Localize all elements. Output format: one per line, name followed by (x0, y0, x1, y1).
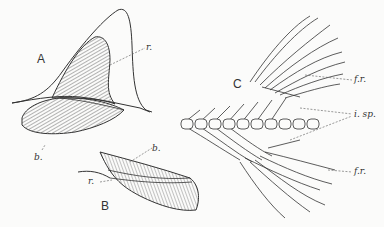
fin-illustration (0, 0, 384, 227)
panel-a-b-annotation: b. (34, 152, 43, 162)
panel-a-r-annotation: r. (146, 42, 152, 52)
panel-b-drawing (78, 152, 198, 210)
panel-c-fr-lower-annotation: f.r. (354, 166, 366, 176)
panel-a-label: A (37, 54, 45, 64)
panel-a-drawing (12, 9, 152, 133)
panel-b-b-annotation: b. (152, 143, 161, 153)
panel-b-r-annotation: r. (88, 176, 94, 186)
vertebral-column (181, 119, 319, 129)
panel-b-label: B (101, 201, 109, 211)
panel-c-isp-annotation: i. sp. (354, 109, 376, 119)
panel-c-label: C (233, 79, 242, 89)
panel-c-drawing (185, 16, 345, 218)
panel-c-fr-upper-annotation: f.r. (354, 74, 366, 84)
